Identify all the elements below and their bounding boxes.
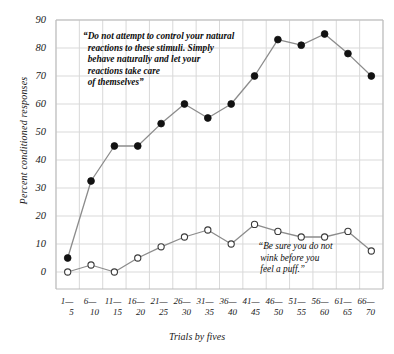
data-point-s1-10	[298, 234, 304, 240]
data-point-s1-7	[228, 241, 234, 247]
data-point-s1-6	[205, 227, 211, 233]
data-point-s0-13	[368, 73, 375, 80]
data-point-s1-9	[275, 228, 281, 234]
data-point-s0-0	[64, 255, 71, 262]
data-point-s0-9	[274, 36, 281, 43]
x-tick-label-13: 66— 70	[349, 296, 383, 318]
data-point-s0-5	[181, 101, 188, 108]
data-point-s1-4	[158, 244, 164, 250]
x-axis-title: Trials by fives	[0, 331, 394, 342]
data-point-s1-0	[65, 269, 71, 275]
data-point-s1-12	[345, 228, 351, 234]
chart-container: Percent conditioned responses 90 80 70 6…	[0, 0, 394, 354]
data-point-s1-8	[251, 221, 257, 227]
data-point-s1-2	[111, 269, 117, 275]
data-point-s0-10	[298, 42, 305, 49]
data-point-s1-11	[322, 234, 328, 240]
data-point-s0-3	[134, 143, 141, 150]
data-point-s0-7	[228, 101, 235, 108]
data-point-s1-13	[368, 248, 374, 254]
data-point-s0-4	[158, 120, 165, 127]
data-point-s1-5	[181, 234, 187, 240]
data-point-s0-2	[111, 143, 118, 150]
x-tick-bottom: 70	[349, 307, 383, 318]
data-point-s0-12	[345, 50, 352, 57]
x-tick-top: 66—	[349, 296, 383, 307]
data-point-s0-6	[204, 115, 211, 122]
data-point-s0-11	[321, 31, 328, 38]
annotation-natural-reactions: “Do not attempt to control your natural …	[83, 31, 234, 89]
data-point-s0-8	[251, 73, 258, 80]
annotation-do-not-wink: “Be sure you do not wink before you feel…	[258, 241, 333, 276]
data-point-s1-1	[88, 262, 94, 268]
data-point-s1-3	[135, 255, 141, 261]
data-point-s0-1	[88, 178, 95, 185]
